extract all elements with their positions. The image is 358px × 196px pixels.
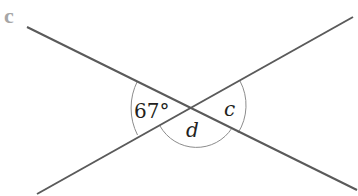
line-descending	[27, 27, 357, 190]
angle-label-c: c	[224, 97, 235, 121]
angle-arc-right	[238, 81, 246, 133]
angle-diagram: c 67° c d	[0, 0, 358, 196]
line-ascending	[37, 17, 353, 194]
angle-label-67: 67°	[134, 99, 169, 123]
part-label: c	[4, 3, 14, 28]
angle-label-d: d	[186, 118, 199, 142]
